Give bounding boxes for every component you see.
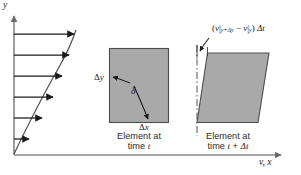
caption-element-time-t-prefix: time (128, 141, 148, 151)
shear-displacement-label: (v|y+Δy − v|y) Δt (212, 23, 265, 34)
caption-element-time-t-variable: t (148, 141, 151, 151)
element-parallelogram-time-t-plus-dt (197, 53, 269, 123)
fluid-element-deformation-figure: y v, x Δy δ Δx Element at time t Element… (0, 0, 301, 175)
y-axis-label: y (3, 0, 7, 11)
shear-label-subscript-1: y+Δy (221, 27, 234, 33)
caption-element-time-t-plus-dt-plus: + (230, 141, 240, 151)
x-axis-label: v, x (259, 157, 271, 168)
shear-label-evalbar-2: | (247, 22, 249, 35)
shear-angle-symbol: δ (131, 86, 135, 96)
shear-label-evalbar-1: | (219, 22, 221, 35)
caption-element-time-t-line2: time t (104, 141, 174, 151)
caption-element-time-t-plus-dt-line2: time t + Δt (186, 141, 270, 151)
caption-element-time-t-plus-dt-line1: Element at (186, 131, 270, 141)
element-square-time-t (110, 49, 169, 123)
shear-label-dt: Δt (255, 23, 265, 33)
caption-element-time-t-plus-dt-delta: Δt (241, 141, 249, 151)
caption-element-time-t-plus-dt-prefix: time (208, 141, 228, 151)
caption-element-time-t-plus-dt: Element at time t + Δt (186, 131, 270, 152)
shear-label-minus: − (234, 23, 244, 33)
caption-element-time-t: Element at time t (104, 131, 174, 152)
delta-y-label: Δy (94, 72, 104, 82)
velocity-profile-curve (14, 30, 76, 154)
delta-y-variable: y (100, 72, 104, 82)
caption-element-time-t-line1: Element at (104, 131, 174, 141)
shear-angle-label: δ (131, 86, 135, 97)
velocity-profile-arrows (14, 34, 74, 139)
